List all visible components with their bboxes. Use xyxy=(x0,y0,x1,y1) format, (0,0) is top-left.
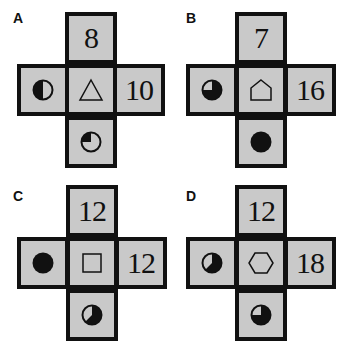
panel-b: B 7 16 xyxy=(172,0,344,180)
quarter-filled-circle-icon xyxy=(80,131,102,153)
panel-label: C xyxy=(13,188,23,204)
half-filled-circle-icon xyxy=(32,79,54,101)
center-cell xyxy=(65,64,117,116)
right-number: 18 xyxy=(296,248,324,278)
right-cell: 18 xyxy=(284,237,336,289)
full-filled-circle-icon xyxy=(250,131,272,153)
left-cell xyxy=(186,64,238,116)
panel-label: B xyxy=(186,10,196,26)
right-cell: 12 xyxy=(115,237,167,289)
five-eighths-filled-circle-icon xyxy=(81,304,103,326)
panel-c: C 12 12 xyxy=(0,180,172,360)
bottom-cell xyxy=(235,289,287,341)
left-cell xyxy=(17,64,69,116)
top-cell: 7 xyxy=(235,12,287,64)
right-number: 12 xyxy=(127,248,155,278)
panel-label: A xyxy=(13,10,23,26)
three-quarter-filled-circle-icon xyxy=(250,304,272,326)
top-number: 8 xyxy=(84,23,98,53)
top-cell: 12 xyxy=(235,185,287,237)
right-number: 16 xyxy=(296,75,324,105)
top-cell: 12 xyxy=(66,185,118,237)
bottom-cell xyxy=(66,289,118,341)
bottom-cell xyxy=(65,116,117,168)
three-quarter-filled-circle-icon xyxy=(201,79,223,101)
top-number: 12 xyxy=(247,196,275,226)
pentagon-icon xyxy=(249,78,273,102)
right-number: 10 xyxy=(125,75,153,105)
center-cell xyxy=(235,64,287,116)
top-number: 7 xyxy=(254,23,268,53)
triangle-icon xyxy=(78,78,104,102)
top-number: 12 xyxy=(78,196,106,226)
panel-a: A 8 10 xyxy=(0,0,172,180)
center-cell xyxy=(66,237,118,289)
left-cell xyxy=(186,237,238,289)
panel-label: D xyxy=(186,188,196,204)
full-filled-circle-icon xyxy=(32,252,54,274)
five-eighths-filled-circle-icon xyxy=(201,252,223,274)
right-cell: 16 xyxy=(284,64,336,116)
panel-d: D 12 18 xyxy=(172,180,344,360)
center-cell xyxy=(235,237,287,289)
left-cell xyxy=(17,237,69,289)
square-icon xyxy=(81,252,103,274)
right-cell: 10 xyxy=(113,64,165,116)
bottom-cell xyxy=(235,116,287,168)
top-cell: 8 xyxy=(65,12,117,64)
hexagon-icon xyxy=(247,251,275,275)
